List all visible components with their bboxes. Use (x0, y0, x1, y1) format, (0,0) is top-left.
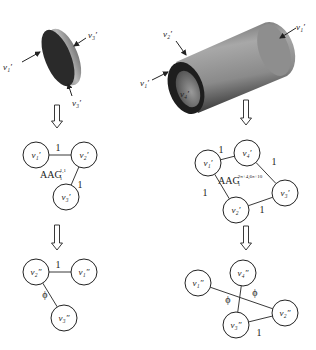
node-label-v1: v₁″ (79, 267, 90, 277)
aag-title: AAG (40, 169, 62, 180)
node-label-v4: v₄″ (238, 268, 249, 278)
down-arrow-icon (241, 100, 252, 125)
diagram-svg: v₁′v₃′v₃′11v₁′v₂′v₃′AAG11,11ϕv₂″v₁″v₃″v₁… (0, 0, 316, 350)
hollow-cylinder-shape (161, 19, 298, 119)
aag-subscript: 1 (238, 182, 241, 187)
node-label-v3: v₃″ (59, 313, 70, 323)
pointer-arrow-icon (176, 41, 186, 55)
edge-label: 1 (56, 142, 61, 153)
disk-shape (35, 24, 89, 91)
cyl-label-v1-left: v₁′ (140, 78, 150, 88)
cyl-label-v2: v₂′ (163, 29, 173, 39)
disk-label-v3-top: v₃′ (88, 30, 98, 40)
edge-label: 1 (219, 144, 224, 155)
pointer-arrow-icon (152, 72, 168, 80)
down-arrow-icon (241, 226, 252, 250)
pointer-arrow-icon (74, 38, 86, 46)
node-label-v3: v₃′ (280, 188, 290, 198)
node-label-v1: v₁′ (31, 150, 41, 160)
cyl-label-v1-right: v₁′ (296, 22, 306, 32)
node-label-v1: v₁″ (193, 278, 204, 288)
graph-edge (249, 316, 273, 322)
figure-canvas: v₁′v₃′v₃′11v₁′v₂′v₃′AAG11,11ϕv₂″v₁″v₃″v₁… (0, 0, 316, 350)
edge-label: 1 (272, 156, 277, 167)
edge-label: 1 (56, 259, 61, 270)
edge-label: 1 (257, 327, 262, 338)
edge-label: 1 (203, 187, 208, 198)
aag-title: AAG (218, 175, 240, 186)
node-label-v2: v₂′ (231, 205, 241, 215)
node-label-v2: v₂″ (31, 267, 42, 277)
pointer-arrow-icon (68, 84, 72, 96)
disk-label-v3-bottom: v₃′ (72, 98, 82, 108)
edge-label: ϕ (42, 289, 47, 300)
aag-superscript: 2π+4,6π+10 (238, 174, 263, 180)
node-label-v2: v₂′ (79, 150, 89, 160)
node-label-v2: v₂″ (280, 308, 291, 318)
cyl-label-v4: v₄′ (180, 89, 190, 99)
node-label-v3: v₃′ (61, 192, 71, 202)
edge-label: ϕ (252, 287, 257, 298)
node-label-v1: v₁′ (203, 158, 213, 168)
node-label-v3: v₃″ (231, 320, 242, 330)
down-arrow-icon (52, 105, 63, 128)
aag-subscript: 1 (60, 176, 63, 181)
graph-edge (221, 156, 235, 160)
graph-edge (210, 287, 272, 309)
disk-label-v1: v₁′ (3, 62, 13, 72)
pointer-arrow-icon (22, 52, 40, 62)
down-arrow-icon (52, 225, 63, 250)
edge-label: ϕ (225, 294, 230, 305)
edge-label: 1 (78, 179, 83, 190)
graph-edge (238, 286, 242, 312)
edge-label: 1 (260, 204, 265, 215)
node-label-v4: v₄′ (242, 148, 252, 158)
